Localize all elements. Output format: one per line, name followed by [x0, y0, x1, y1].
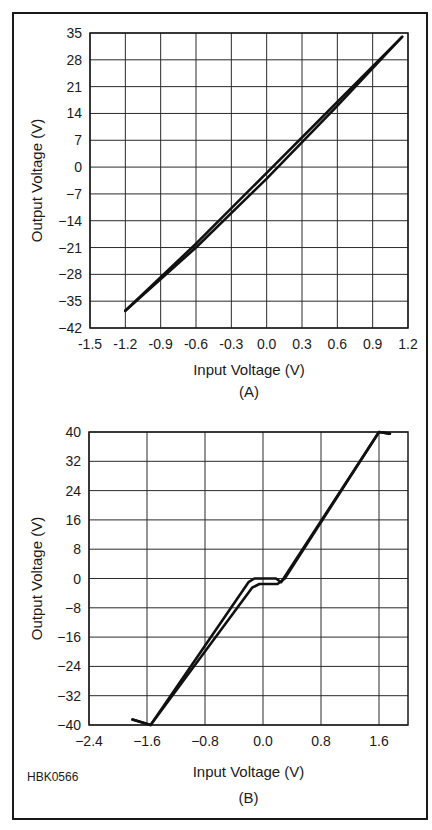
x-tick-label: 0.6 [328, 336, 348, 352]
y-tick-label: 0 [74, 159, 82, 175]
x-tick-label: 1.6 [369, 733, 389, 749]
y-tick-label: 21 [66, 79, 82, 95]
trace-upper [125, 37, 402, 311]
y-tick-label: −21 [58, 240, 82, 256]
y-tick-label: 0 [73, 571, 81, 587]
y-tick-label: 35 [66, 25, 82, 41]
y-tick-label: −24 [57, 658, 81, 674]
y-tick-label: 32 [65, 453, 81, 469]
x-tick-label: -0.6 [184, 336, 208, 352]
panel-label: (B) [239, 789, 259, 806]
y-tick-label: 7 [74, 132, 82, 148]
x-tick-label: 0.8 [311, 733, 331, 749]
x-tick-label: 0.0 [257, 336, 277, 352]
figure-canvas: 3528211470−7−14−21−28−35−42-1.5-1.2-0.9-… [0, 0, 432, 830]
y-tick-label: −28 [58, 266, 82, 282]
x-tick-label: 0.0 [253, 733, 273, 749]
y-tick-label: −40 [57, 717, 81, 733]
y-tick-label: 24 [65, 483, 81, 499]
y-tick-label: −8 [65, 600, 81, 616]
panel-label: (A) [239, 383, 259, 400]
y-tick-label: 28 [66, 52, 82, 68]
y-tick-label: −16 [57, 629, 81, 645]
y-tick-label: −32 [57, 688, 81, 704]
y-tick-label: −7 [66, 186, 82, 202]
chart-a: 3528211470−7−14−21−28−35−42-1.5-1.2-0.9-… [28, 25, 418, 400]
y-tick-label: −14 [58, 213, 82, 229]
chart-b: 4032241680−8−16−24−32−40−2.4−1.6−0.80.00… [28, 424, 408, 806]
y-axis-label: Output Voltage (V) [28, 119, 45, 242]
x-tick-label: −0.8 [191, 733, 219, 749]
x-axis-label: Input Voltage (V) [193, 361, 305, 378]
y-tick-label: 8 [73, 541, 81, 557]
y-tick-label: 16 [65, 512, 81, 528]
y-tick-label: −42 [58, 320, 82, 336]
x-axis-label: Input Voltage (V) [193, 763, 305, 780]
x-tick-label: 1.2 [398, 336, 418, 352]
x-tick-label: 0.9 [363, 336, 383, 352]
x-tick-label: −2.4 [75, 733, 103, 749]
x-tick-label: −1.6 [133, 733, 161, 749]
x-tick-label: -0.3 [219, 336, 243, 352]
y-axis-label: Output Voltage (V) [28, 517, 45, 640]
grid [89, 432, 408, 725]
y-tick-label: −35 [58, 293, 82, 309]
x-tick-label: -1.2 [113, 336, 137, 352]
figure-code: HBK0566 [27, 770, 79, 784]
x-tick-label: 0.3 [292, 336, 312, 352]
y-tick-label: 14 [66, 105, 82, 121]
y-tick-label: 40 [65, 424, 81, 440]
x-tick-label: -1.5 [78, 336, 102, 352]
x-tick-label: -0.9 [149, 336, 173, 352]
